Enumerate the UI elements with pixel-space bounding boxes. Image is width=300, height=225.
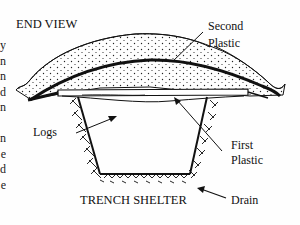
label-drain: Drain	[231, 193, 258, 207]
leader-logs	[76, 118, 113, 133]
label-second-plastic-line1: Second	[208, 18, 243, 35]
label-second-plastic-line2: Plastic	[208, 35, 243, 52]
arrowhead-drain	[197, 186, 205, 193]
leader-drain	[201, 189, 226, 198]
label-first-plastic-line1: First	[231, 138, 263, 153]
label-first-plastic-line2: Plastic	[231, 153, 263, 168]
earth-hatching	[70, 98, 218, 183]
trench-shelter-diagram: y n n d n n e d e	[0, 0, 300, 225]
diagram-caption: TRENCH SHELTER	[80, 193, 187, 207]
diagram-drawing	[0, 0, 300, 225]
label-second-plastic: Second Plastic	[208, 18, 243, 52]
first-plastic	[62, 96, 244, 102]
label-logs: Logs	[33, 125, 57, 139]
label-first-plastic: First Plastic	[231, 138, 263, 168]
trench-wall-right	[190, 97, 207, 174]
leader-first-plastic	[177, 100, 222, 151]
diagram-title: END VIEW	[16, 17, 77, 31]
